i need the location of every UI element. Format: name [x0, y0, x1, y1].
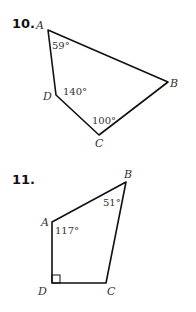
geometry-figures: A B C D 59° 140° 100° A B C D 117° 51° [0, 0, 196, 312]
vertex-label-10-C: C [95, 137, 104, 150]
vertex-label-11-C: C [107, 285, 116, 298]
vertex-label-11-A: A [40, 216, 49, 229]
vertex-label-10-A: A [35, 19, 44, 32]
vertex-label-10-D: D [42, 90, 52, 103]
angle-label-10-A: 59° [52, 40, 70, 51]
vertex-label-11-B: B [123, 168, 132, 181]
vertex-label-11-D: D [37, 285, 47, 298]
angle-label-10-D: 140° [63, 86, 87, 97]
angle-label-10-C: 100° [92, 115, 116, 126]
vertex-label-10-B: B [169, 77, 178, 90]
right-angle-marker-11-D [52, 275, 60, 283]
angle-label-11-A: 117° [55, 225, 79, 236]
angle-label-11-B: 51° [103, 197, 121, 208]
